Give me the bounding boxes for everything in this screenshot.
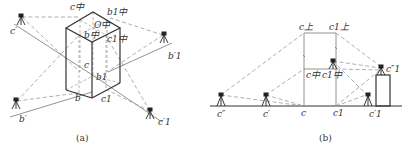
label-c: c	[84, 60, 89, 70]
sight-c-prime-to-c-mid	[266, 69, 304, 95]
label-c1: c1	[101, 94, 112, 104]
label-c-prime: c′	[10, 26, 17, 36]
theodolite-icon	[217, 93, 225, 107]
label-c1: c1	[333, 108, 344, 118]
sight-c1-prime-to-c1-mid	[106, 36, 150, 111]
sight-c1-top-to-c1-double-prime	[336, 33, 380, 66]
sight-c-prime-to-c	[266, 95, 304, 106]
figure-a: c中 b1中 O中 b中 c1中 c b1 b c1 c′ b′1 b′ c′1…	[10, 2, 182, 143]
theodolite-icon	[364, 93, 372, 107]
label-c1-top: c1上	[329, 22, 350, 32]
axis-transfer-diagram: c中 b1中 O中 b中 c1中 c b1 b c1 c′ b′1 b′ c′1…	[0, 0, 414, 156]
label-c1-prime: c′1	[369, 109, 382, 119]
label-c-top: c上	[299, 22, 314, 32]
label-b: b	[75, 93, 81, 103]
caption-b: (b)	[319, 133, 332, 143]
sight-c1-to-c1-double-prime	[336, 70, 380, 106]
label-c: c	[301, 108, 306, 118]
theodolite-icon	[160, 32, 168, 44]
label-b-prime: b′	[19, 114, 27, 124]
label-b-mid: b中	[84, 30, 100, 40]
label-b1: b1	[96, 72, 108, 82]
sight-c-double-prime-to-c-top	[221, 33, 304, 95]
label-c-prime: c′	[263, 109, 270, 119]
label-c1-double-prime: c″1	[386, 64, 400, 74]
adjacent-building	[376, 75, 390, 106]
label-b1-prime: b′1	[168, 51, 182, 61]
label-c-mid: c中	[70, 2, 85, 12]
figure-b: c上 c1上 c中 c1中 c c1 c″ c′ c′1 c″1 (b)	[210, 22, 402, 143]
sight-b1-prime-to-b1-mid	[107, 17, 163, 35]
caption-a: (a)	[76, 133, 88, 143]
sight-c1-prime-to-c1	[107, 90, 150, 111]
axis-line-b1	[108, 43, 172, 72]
label-b1-mid: b1中	[107, 7, 128, 17]
label-c1-mid: c1中	[107, 34, 128, 44]
sight-b-prime-to-b	[17, 93, 78, 101]
hidden-edge-bottom-left	[66, 76, 93, 90]
label-c-mid: c中	[306, 70, 321, 80]
label-O-mid: O中	[94, 20, 111, 30]
sight-c1-mid-to-c1-double-prime	[336, 69, 380, 70]
label-c1-prime: c′1	[158, 117, 171, 127]
label-c1-mid: c1中	[322, 70, 343, 80]
sight-mid-to-c1-double-prime	[333, 61, 380, 68]
label-c-double-prime: c″	[217, 109, 226, 119]
theodolite-icon	[262, 93, 270, 107]
sight-c1-to-c1-prime	[336, 95, 366, 106]
